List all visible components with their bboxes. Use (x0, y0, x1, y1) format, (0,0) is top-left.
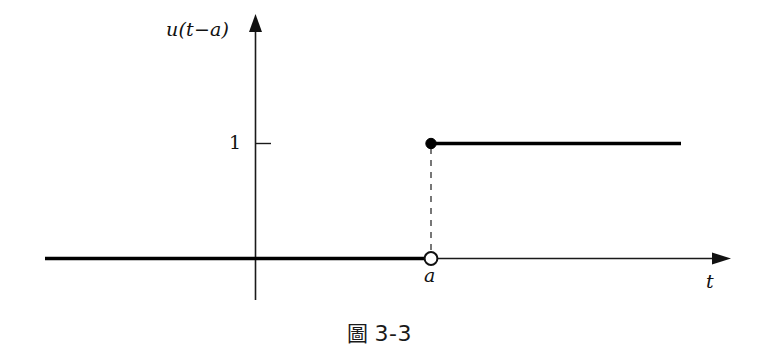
closed-point-marker (426, 138, 436, 148)
x-tick-label-a: a (424, 266, 435, 285)
caption-number: 3-3 (375, 321, 412, 346)
caption-figure-mark: 圖 (347, 322, 369, 346)
y-tick-label-1: 1 (229, 133, 241, 152)
t-axis-label: t (706, 272, 714, 291)
y-axis-arrowhead (249, 14, 262, 32)
t-axis-arrowhead (712, 253, 731, 265)
figure-container: u(t−a) 1 a t 圖3-3 (0, 0, 759, 359)
open-point-marker (425, 252, 438, 265)
y-axis-label: u(t−a) (166, 20, 229, 39)
step-function-plot (0, 0, 759, 359)
figure-caption: 圖3-3 (0, 322, 759, 346)
